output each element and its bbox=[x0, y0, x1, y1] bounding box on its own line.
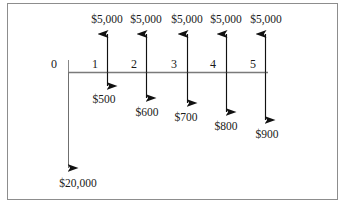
cash-flow-canvas bbox=[0, 0, 345, 208]
inflow-label-5: $5,000 bbox=[250, 14, 282, 26]
inflow-label-2: $5,000 bbox=[130, 14, 162, 26]
outflow-label-3: $700 bbox=[175, 112, 198, 124]
period-label-3: 3 bbox=[171, 58, 177, 70]
outflow-label-4: $800 bbox=[215, 121, 238, 133]
cash-flow-figure: $5,000 $5,000 $5,000 $5,000 $5,000 0 1 2… bbox=[0, 0, 345, 208]
outflow-label-5: $900 bbox=[256, 129, 279, 141]
period-ticks bbox=[69, 56, 266, 73]
period-label-5: 5 bbox=[250, 58, 256, 70]
initial-outflow-label: $20,000 bbox=[59, 178, 96, 190]
period-label-1: 1 bbox=[92, 58, 98, 70]
inflow-label-3: $5,000 bbox=[171, 14, 203, 26]
inflow-label-4: $5,000 bbox=[210, 14, 242, 26]
period-label-0: 0 bbox=[51, 58, 57, 70]
period-label-4: 4 bbox=[210, 58, 216, 70]
period-label-2: 2 bbox=[131, 58, 137, 70]
outflow-label-2: $600 bbox=[136, 107, 159, 119]
outflow-label-1: $500 bbox=[93, 94, 116, 106]
inflow-label-1: $5,000 bbox=[91, 14, 123, 26]
